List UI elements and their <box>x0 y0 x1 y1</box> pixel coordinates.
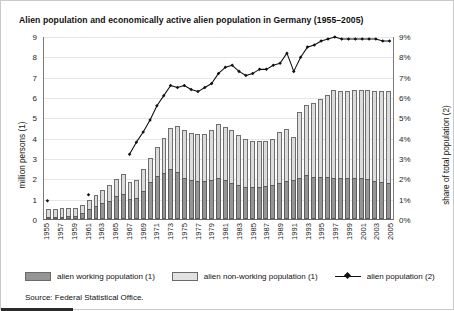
bar-segment-non-working <box>270 139 275 185</box>
bar-segment-working <box>318 177 323 219</box>
x-tick-slot: 2005 <box>387 222 394 260</box>
bar-stack <box>175 126 180 219</box>
bar-stack <box>121 174 126 219</box>
y-tick-right-2pct: 2% <box>399 175 421 184</box>
x-tick-slot: 1957 <box>57 222 64 260</box>
legend-item-share[interactable]: alien population (2) <box>335 272 435 281</box>
bar-segment-working <box>236 185 241 219</box>
bar-segment-non-working <box>202 134 207 182</box>
x-tick-slot: 1969 <box>139 222 146 260</box>
bar-column <box>174 37 181 219</box>
y-tick-right-3pct: 3% <box>399 155 421 164</box>
bar-segment-non-working <box>189 133 194 180</box>
bar-segment-non-working <box>318 99 323 177</box>
bar-segment-working <box>386 183 391 219</box>
bar-segment-working <box>345 178 350 219</box>
bar-stack <box>277 132 282 219</box>
bar-stack <box>60 208 65 219</box>
y-tick-left-2: 2 <box>23 175 37 184</box>
bar-stack <box>134 180 139 219</box>
bar-stack <box>182 130 187 219</box>
legend-item-working[interactable]: alien working population (1) <box>25 272 155 281</box>
bar-stack <box>257 141 262 219</box>
bar-stack <box>53 209 58 219</box>
legend-item-nonworking[interactable]: alien non-working population (1) <box>172 272 318 281</box>
bar-stack <box>263 141 268 219</box>
y-tick-left-0: 0 <box>23 216 37 225</box>
bar-column <box>167 37 174 219</box>
bar-segment-working <box>121 194 126 219</box>
y-axis-label-right: share of total population (2) <box>442 65 451 245</box>
bar-stack <box>359 90 364 220</box>
bar-column <box>59 37 66 219</box>
bar-segment-working <box>263 186 268 219</box>
bar-segment-working <box>114 196 119 219</box>
bar-segment-working <box>73 216 78 219</box>
y-tick-left-7: 7 <box>23 73 37 82</box>
legend: alien working population (1)alien non-wo… <box>25 272 452 281</box>
bar-segment-non-working <box>46 209 51 217</box>
bar-column <box>337 37 344 219</box>
bar-stack <box>250 141 255 219</box>
y-tick-right-4pct: 4% <box>399 134 421 143</box>
x-tick-slot: 2001 <box>359 222 366 260</box>
bar-stack <box>297 112 302 219</box>
bar-segment-non-working <box>168 128 173 170</box>
bar-segment-working <box>134 198 139 219</box>
bar-segment-working <box>182 178 187 219</box>
bar-column <box>79 37 86 219</box>
bar-column <box>229 37 236 219</box>
bar-column <box>351 37 358 219</box>
bar-segment-working <box>304 175 309 219</box>
x-tick-slot: 1955 <box>43 222 50 260</box>
y-tick-right-9pct: 9% <box>399 33 421 42</box>
legend-line-marker-icon <box>335 272 361 281</box>
bar-stack <box>46 209 51 219</box>
bar-segment-working <box>53 217 58 219</box>
x-tick-slot: 1987 <box>263 222 270 260</box>
bar-segment-working <box>100 203 105 219</box>
bar-segment-non-working <box>325 95 330 177</box>
bar-series <box>44 37 393 219</box>
x-tick-slot: 2003 <box>373 222 380 260</box>
bar-segment-working <box>141 191 146 219</box>
bar-segment-working <box>216 178 221 219</box>
bar-column <box>371 37 378 219</box>
bar-segment-non-working <box>331 90 336 178</box>
bar-segment-non-working <box>60 208 65 216</box>
y-tick-right-5pct: 5% <box>399 114 421 123</box>
bar-stack <box>216 124 221 219</box>
x-tick-slot: 1975 <box>181 222 188 260</box>
bar-column <box>344 37 351 219</box>
y-tick-left-1: 1 <box>23 195 37 204</box>
x-tick-slot: 1995 <box>318 222 325 260</box>
bar-segment-non-working <box>148 158 153 182</box>
y-tick-left-9: 9 <box>23 33 37 42</box>
bar-column <box>256 37 263 219</box>
bar-stack <box>304 105 309 219</box>
bar-column <box>154 37 161 219</box>
bar-segment-non-working <box>121 174 126 193</box>
bar-column <box>106 37 113 219</box>
bar-stack <box>291 137 296 219</box>
bar-column <box>385 37 392 219</box>
bar-segment-non-working <box>114 179 119 196</box>
x-tick-slot: 1985 <box>249 222 256 260</box>
bar-segment-non-working <box>155 147 160 176</box>
bar-segment-working <box>229 183 234 219</box>
bar-column <box>317 37 324 219</box>
bar-segment-non-working <box>216 124 221 178</box>
bar-segment-non-working <box>379 91 384 182</box>
legend-swatch-icon <box>172 272 198 281</box>
bar-segment-non-working <box>263 141 268 186</box>
bar-segment-working <box>148 182 153 219</box>
bar-stack <box>73 208 78 219</box>
bar-stack <box>229 130 234 219</box>
bar-segment-non-working <box>277 132 282 183</box>
bar-column <box>113 37 120 219</box>
bar-stack <box>141 169 146 219</box>
x-axis-ticks: 1955195719591961196319651967196919711973… <box>43 222 394 260</box>
bar-segment-working <box>46 217 51 219</box>
bar-segment-working <box>189 180 194 219</box>
bar-segment-working <box>291 180 296 219</box>
